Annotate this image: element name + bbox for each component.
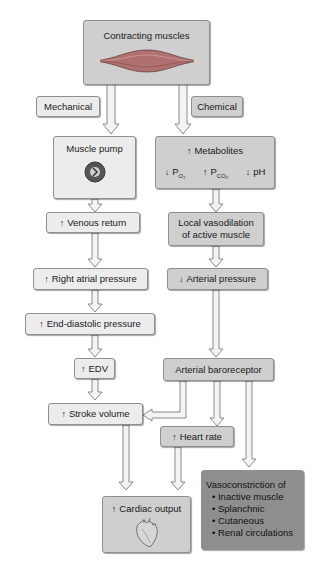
decrease-arrow-icon: ↓ <box>179 273 184 285</box>
muscle-pump-box: Muscle pump <box>53 136 136 199</box>
decrease-arrow-icon: ↓ <box>246 167 251 177</box>
po2-item: ↓PO₂ <box>165 166 186 182</box>
edv-label: EDV <box>88 363 108 375</box>
increase-arrow-icon: ↑ <box>81 363 86 375</box>
chemical-text: Chemical <box>197 101 237 113</box>
increase-arrow-icon: ↑ <box>61 408 66 420</box>
increase-arrow-icon: ↑ <box>187 146 192 156</box>
metabolite-params: ↓PO₂ ↑PCO₂ ↓pH <box>156 166 274 182</box>
arterial-pressure-label: Arterial pressure <box>186 273 256 285</box>
vasoconstriction-item: • Inactive muscle <box>212 491 303 503</box>
arterial-baroreceptor-label: Arterial baroreceptor <box>175 364 262 376</box>
arterial-pressure-box: ↓Arterial pressure <box>167 268 268 290</box>
increase-arrow-icon: ↑ <box>112 504 117 514</box>
cardiac-output-row: ↑Cardiac output <box>103 503 190 515</box>
venous-return-box: ↑Venous return <box>46 212 140 233</box>
heart-rate-label: Heart rate <box>180 431 222 443</box>
increase-arrow-icon: ↑ <box>203 167 208 177</box>
muscle-icon <box>92 48 202 74</box>
venous-return-label: Venous return <box>67 217 126 229</box>
cardiac-output-label: Cardiac output <box>119 503 181 514</box>
contracting-muscles-label: Contracting muscles <box>84 30 209 42</box>
increase-arrow-icon: ↑ <box>172 431 177 443</box>
pco2-item: ↑PCO₂ <box>203 166 228 182</box>
vasoconstriction-title: Vasoconstriction of <box>206 479 303 491</box>
increase-arrow-icon: ↑ <box>44 273 49 285</box>
local-vasodilation-line1: Local vasodilation <box>169 217 263 229</box>
increase-arrow-icon: ↑ <box>39 318 44 330</box>
cardiac-output-box: ↑Cardiac output <box>102 496 191 553</box>
stroke-volume-box: ↑Stroke volume <box>48 403 143 425</box>
increase-arrow-icon: ↑ <box>60 217 65 229</box>
muscle-pump-label: Muscle pump <box>54 143 135 155</box>
decrease-arrow-icon: ↓ <box>165 167 170 177</box>
heart-icon <box>132 517 162 549</box>
vasoconstriction-item: • Renal circulations <box>212 527 303 539</box>
chemical-label: Chemical <box>191 96 243 117</box>
end-diastolic-pressure-label: End-diastolic pressure <box>47 318 141 330</box>
heart-rate-box: ↑Heart rate <box>160 426 234 447</box>
pco2-sub: CO₂ <box>217 173 228 179</box>
end-diastolic-pressure-box: ↑End-diastolic pressure <box>25 313 155 335</box>
mechanical-label: Mechanical <box>36 96 100 117</box>
arterial-baroreceptor-box: Arterial baroreceptor <box>163 358 274 381</box>
po2-sub: O₂ <box>179 173 186 179</box>
local-vasodilation-line2: of active muscle <box>169 229 263 241</box>
ph-label: pH <box>253 166 265 177</box>
vasoconstriction-list: • Inactive muscle • Splanchnic • Cutaneo… <box>206 491 303 539</box>
stroke-volume-label: Stroke volume <box>69 408 130 420</box>
metabolites-label: Metabolites <box>194 145 243 156</box>
right-atrial-pressure-box: ↑Right atrial pressure <box>33 268 148 290</box>
edv-box: ↑EDV <box>74 358 115 379</box>
item-splanchnic: Splanchnic <box>218 503 264 514</box>
vasoconstriction-item: • Splanchnic <box>212 503 303 515</box>
pump-cycle-icon <box>83 160 107 184</box>
item-renal-circulations: Renal circulations <box>218 527 293 538</box>
item-inactive-muscle: Inactive muscle <box>218 491 283 502</box>
vasoconstriction-box: Vasoconstriction of • Inactive muscle • … <box>201 470 304 550</box>
local-vasodilation-box: Local vasodilation of active muscle <box>168 212 264 246</box>
item-cutaneous: Cutaneous <box>218 515 264 526</box>
contracting-muscles-box: Contracting muscles <box>83 20 210 85</box>
mechanical-text: Mechanical <box>44 101 92 113</box>
metabolites-row: ↑Metabolites <box>156 145 274 157</box>
metabolites-box: ↑Metabolites ↓PO₂ ↑PCO₂ ↓pH <box>155 136 275 189</box>
ph-item: ↓pH <box>246 166 266 182</box>
right-atrial-pressure-label: Right atrial pressure <box>52 273 137 285</box>
vasoconstriction-item: • Cutaneous <box>212 515 303 527</box>
